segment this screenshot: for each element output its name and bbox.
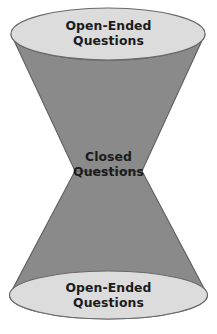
label-line: Questions [0,296,217,311]
label-closed-middle: Closed Questions [0,150,217,179]
label-line: Open-Ended [0,19,217,34]
label-line: Questions [0,34,217,49]
label-line: Questions [0,165,217,180]
hourglass-diagram: Open-Ended Questions Closed Questions Op… [0,0,217,334]
label-open-ended-top: Open-Ended Questions [0,19,217,48]
label-line: Open-Ended [0,281,217,296]
label-line: Closed [0,150,217,165]
label-open-ended-bottom: Open-Ended Questions [0,281,217,310]
